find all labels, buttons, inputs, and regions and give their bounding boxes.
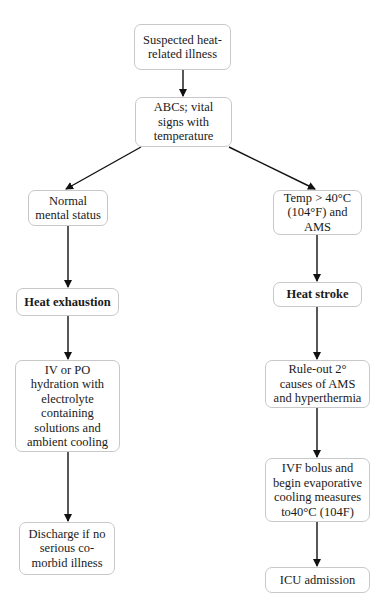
node-heat-exhaustion: Heat exhaustion	[16, 288, 119, 316]
node-label: Normal mental status	[33, 194, 103, 223]
node-rule-out-causes: Rule-out 2° causes of AMS and hypertherm…	[265, 360, 370, 408]
node-icu-admission: ICU admission	[265, 567, 370, 593]
node-label: Temp > 40°C (104°F) and AMS	[275, 191, 360, 235]
node-temp-ams: Temp > 40°C (104°F) and AMS	[273, 190, 362, 235]
node-label: Heat exhaustion	[24, 295, 110, 310]
node-suspected-heat-illness: Suspected heat-related illness	[134, 24, 231, 70]
node-iv-po-hydration: IV or PO hydration with electrolyte cont…	[15, 360, 120, 452]
arrow-abcs-to-normal	[66, 147, 141, 189]
node-label: IV or PO hydration with electrolyte cont…	[26, 363, 109, 450]
node-ivf-bolus-cooling: IVF bolus and begin evaporative cooling …	[265, 458, 370, 522]
node-label: Rule-out 2° causes of AMS and hypertherm…	[272, 362, 363, 406]
node-label: ICU admission	[280, 573, 355, 588]
node-label: Discharge if no serious co-morbid illnes…	[28, 527, 106, 571]
node-discharge: Discharge if no serious co-morbid illnes…	[19, 522, 115, 575]
node-normal-mental-status: Normal mental status	[28, 190, 108, 226]
arrow-abcs-to-temp	[229, 147, 315, 189]
node-abcs-vital-signs: ABCs; vital signs with temperature	[135, 97, 232, 147]
node-label: ABCs; vital signs with temperature	[140, 100, 227, 144]
node-label: IVF bolus and begin evaporative cooling …	[269, 461, 366, 519]
node-label: Heat stroke	[287, 287, 349, 302]
node-heat-stroke: Heat stroke	[273, 282, 362, 307]
node-label: Suspected heat-related illness	[139, 33, 226, 62]
